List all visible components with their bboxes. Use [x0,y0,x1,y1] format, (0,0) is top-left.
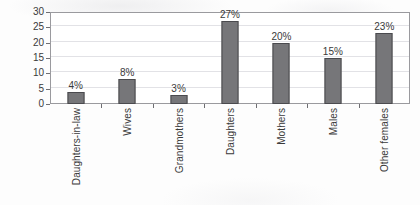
bar-group: 20% [256,12,307,104]
y-axis-tick-label: 15 [33,52,44,63]
bar [324,58,341,104]
x-axis-category-label: Daughters-in-law [70,108,81,185]
x-axis-category-label: Other females [379,108,390,172]
y-axis-tick-label: 20 [33,37,44,48]
bar-value-label: 8% [120,67,134,78]
bar-value-label: 23% [374,21,394,32]
y-axis-tick-label: 0 [38,98,44,109]
bar [221,21,238,104]
bar-value-label: 3% [171,83,185,94]
bars-layer: 4%8%3%27%20%15%23% [50,12,410,104]
x-axis-category-label: Daughters [224,108,235,155]
x-axis-category: Males [307,108,358,203]
bar-group: 3% [153,12,204,104]
bar-chart-figure: Percentage 051015202530 4%8%3%27%20%15%2… [0,0,420,205]
bar [119,79,136,104]
bar-group: 15% [307,12,358,104]
x-axis-category-label: Grandmothers [173,108,184,173]
bar-group: 8% [101,12,152,104]
x-axis-category: Daughters [204,108,255,203]
y-axis-tick-label: 25 [33,21,44,32]
bar [376,33,393,104]
bar-group: 23% [359,12,410,104]
x-axis-labels: Daughters-in-lawWivesGrandmothersDaughte… [50,108,410,203]
bar [273,43,290,104]
x-axis-category: Grandmothers [153,108,204,203]
y-axis-tick-label: 30 [33,6,44,17]
x-axis-category-label: Mothers [276,108,287,145]
bar-value-label: 4% [68,80,82,91]
y-axis-tick-label: 5 [38,83,44,94]
x-axis-category: Mothers [256,108,307,203]
bar-group: 27% [204,12,255,104]
x-axis-category: Other females [359,108,410,203]
bar-value-label: 15% [323,46,343,57]
y-axis: 051015202530 [0,12,50,104]
x-axis-category-label: Males [327,108,338,135]
bar-value-label: 20% [271,31,291,42]
y-axis-tick-label: 10 [33,67,44,78]
x-axis-category: Daughters-in-law [50,108,101,203]
x-axis-category: Wives [101,108,152,203]
x-axis-category-label: Wives [122,108,133,136]
bar-group: 4% [50,12,101,104]
bar-value-label: 27% [220,9,240,20]
bar [67,92,84,104]
bar [170,95,187,104]
